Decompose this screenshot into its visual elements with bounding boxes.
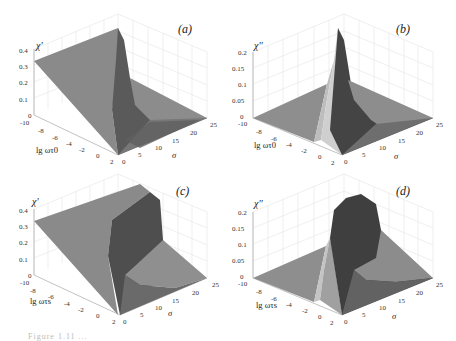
- y-tick: 5: [140, 312, 144, 319]
- figure-caption: Figure 1.11 ...: [28, 332, 88, 341]
- panel-d: χ'' (d) 0.2 0.15 0.1 0.05 0 -10 -8 -6 -4…: [226, 170, 454, 340]
- z-tick: 0.2: [19, 240, 28, 247]
- y-axis-label: σ: [168, 308, 172, 318]
- y-tick: 20: [190, 130, 197, 137]
- x-tick: -10: [20, 280, 29, 287]
- x-tick: 2: [331, 160, 335, 167]
- x-tick: -2: [302, 308, 308, 315]
- panel-c: χ' (c) 0.4 0.3 0.2 0.1 0 -10 -8 -6 -4 -2…: [0, 170, 228, 340]
- x-tick: -4: [286, 142, 292, 149]
- panel-label: (b): [396, 22, 410, 37]
- z-axis-label: χ'': [254, 40, 263, 51]
- y-tick: 25: [212, 282, 219, 289]
- z-tick: 0.2: [19, 80, 28, 87]
- y-tick: 10: [379, 145, 386, 152]
- y-tick: 0: [122, 159, 126, 166]
- y-tick: 15: [172, 138, 179, 145]
- panel-label: (a): [178, 22, 192, 37]
- x-tick: -8: [256, 289, 262, 296]
- x-tick: -10: [238, 121, 247, 128]
- x-axis-label: lg ωτs: [30, 296, 51, 306]
- x-axis-label: lg ωτ0: [254, 140, 276, 150]
- x-tick: -10: [20, 120, 29, 127]
- z-tick: 0.2: [238, 210, 247, 217]
- y-tick: 10: [155, 305, 162, 312]
- y-tick: 5: [362, 152, 366, 159]
- x-axis-label: lg ωτ0: [36, 145, 58, 155]
- y-tick: 15: [398, 298, 405, 305]
- y-tick: 25: [436, 282, 443, 289]
- z-tick: 0.15: [232, 66, 244, 73]
- z-tick: 0.1: [19, 97, 28, 104]
- x-tick: -8: [256, 129, 262, 136]
- x-tick: 2: [112, 319, 116, 326]
- z-tick: 0.4: [19, 208, 28, 215]
- panel-a: χ' (a) 0.4 0.3 0.2 0.1 0 -10 -8 -6 -4 -2…: [0, 0, 228, 170]
- x-tick: -4: [66, 141, 72, 148]
- x-tick: 2: [330, 320, 334, 327]
- x-tick: 0: [96, 313, 100, 320]
- y-tick: 20: [416, 130, 423, 137]
- surface-plot-a: [0, 0, 228, 170]
- y-tick: 20: [416, 290, 423, 297]
- z-tick: 0.1: [238, 82, 247, 89]
- x-tick: -2: [301, 148, 307, 155]
- y-tick: 15: [172, 298, 179, 305]
- y-tick: 0: [344, 159, 348, 166]
- z-tick: 0.2: [238, 50, 247, 57]
- panel-label: (c): [176, 184, 189, 199]
- y-tick: 20: [192, 290, 199, 297]
- z-tick: 0.3: [19, 64, 28, 71]
- x-tick: -8: [38, 128, 44, 135]
- y-tick: 25: [210, 122, 217, 129]
- x-tick: 0: [318, 154, 322, 161]
- y-axis-label: σ: [172, 150, 176, 160]
- z-tick: 0.15: [232, 226, 244, 233]
- z-axis-label: χ': [36, 40, 43, 51]
- z-tick: 0.1: [19, 257, 28, 264]
- y-tick: 0: [344, 319, 348, 326]
- z-axis-label: χ'': [254, 198, 263, 209]
- x-axis-label: lg ωτs: [256, 300, 277, 310]
- x-tick: -6: [52, 135, 58, 142]
- z-axis-label: χ': [32, 196, 39, 207]
- y-axis-label: σ: [392, 311, 396, 321]
- z-tick: 0.4: [19, 48, 28, 55]
- panel-label: (d): [396, 184, 410, 199]
- y-tick: 25: [436, 122, 443, 129]
- y-tick: 10: [155, 145, 162, 152]
- surface-plot-d: [226, 170, 454, 340]
- z-tick: 0.05: [232, 258, 244, 265]
- z-tick: 0.1: [238, 242, 247, 249]
- x-tick: 0: [96, 153, 100, 160]
- y-tick: 0: [123, 319, 127, 326]
- y-tick: 15: [398, 138, 405, 145]
- panel-b: χ'' (b) 0.2 0.15 0.1 0.05 0 -10 -8 -6 -4…: [226, 0, 454, 170]
- z-tick: 0.3: [19, 224, 28, 231]
- x-tick: -2: [79, 147, 85, 154]
- y-tick: 5: [362, 312, 366, 319]
- x-tick: -4: [286, 302, 292, 309]
- z-tick: 0.05: [232, 98, 244, 105]
- y-axis-label: σ: [394, 151, 398, 161]
- x-tick: -4: [64, 301, 70, 308]
- y-tick: 10: [379, 305, 386, 312]
- x-tick: -2: [78, 307, 84, 314]
- y-tick: 5: [138, 152, 142, 159]
- x-tick: -8: [30, 288, 36, 295]
- x-tick: 2: [110, 159, 114, 166]
- x-tick: -10: [238, 281, 247, 288]
- x-tick: 0: [318, 314, 322, 321]
